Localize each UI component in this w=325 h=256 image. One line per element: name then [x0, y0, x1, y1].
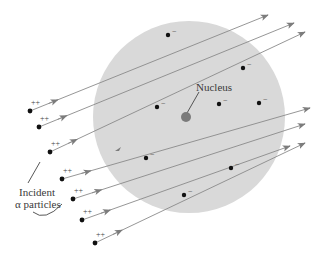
electron-charge-label: − — [161, 99, 166, 108]
direction-arrow-icon — [58, 116, 67, 120]
alpha-charge-label: ++ — [31, 98, 41, 107]
alpha-charge-label: ++ — [96, 230, 106, 239]
alpha-charge-label: ++ — [83, 207, 93, 216]
nucleus — [181, 112, 191, 122]
incident-label-line1: Incident — [19, 186, 55, 198]
alpha-dot — [71, 197, 76, 202]
electron-charge-label: − — [247, 60, 252, 69]
electron-charge-label: − — [188, 187, 193, 196]
electron-charge-label: − — [150, 150, 155, 159]
electron-charge-label: − — [235, 160, 240, 169]
exit-arrow-icon — [262, 15, 268, 17]
direction-arrow-icon — [81, 171, 91, 174]
alpha-dot — [60, 177, 65, 182]
electron-dot — [217, 102, 221, 106]
alpha-charge-label: ++ — [51, 139, 61, 148]
direction-arrow-icon — [113, 230, 122, 234]
alpha-dot — [48, 150, 53, 155]
exit-arrow-icon — [300, 143, 305, 146]
exit-arrow-icon — [288, 23, 294, 25]
electron-dot — [257, 101, 261, 105]
electron-dot — [166, 33, 170, 37]
alpha-dot — [93, 241, 98, 246]
incident-leader-line — [28, 162, 40, 183]
exit-arrow-icon — [300, 32, 305, 35]
alpha-charge-label: ++ — [74, 186, 84, 195]
rutherford-diagram: ++++++++++++++ −−−−−−−− Nucleus Incident… — [0, 0, 325, 256]
electron-dot — [144, 156, 148, 160]
alpha-charge-label: ++ — [63, 166, 73, 175]
alpha-charge-label: ++ — [40, 114, 50, 123]
incident-label-group: Incident α particles — [15, 162, 62, 216]
direction-arrow-icon — [101, 210, 110, 213]
direction-arrow-icon — [49, 100, 58, 104]
direction-arrow-icon — [92, 190, 102, 193]
alpha-dot — [37, 125, 42, 130]
electron-dot — [229, 166, 233, 170]
incident-label-line2: α particles — [15, 198, 61, 210]
exit-arrow-icon — [284, 146, 290, 148]
nucleus-label: Nucleus — [196, 81, 232, 93]
electron-dot — [241, 66, 245, 70]
exit-arrow-icon — [304, 108, 310, 110]
alpha-dot — [80, 218, 85, 223]
electron-charge-label: − — [172, 27, 177, 36]
electron-dot — [182, 193, 186, 197]
electron-dot — [155, 105, 159, 109]
electron-charge-label: − — [223, 96, 228, 105]
exit-arrow-icon — [299, 124, 305, 126]
direction-arrow-icon — [68, 139, 77, 143]
electron-charge-label: − — [263, 95, 268, 104]
alpha-dot — [28, 109, 33, 114]
